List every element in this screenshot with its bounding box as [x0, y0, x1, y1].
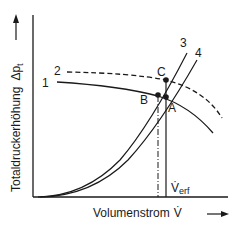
- point-b-marker: [155, 92, 161, 98]
- y-axis-arrow-icon: [13, 14, 19, 23]
- curve-1-label: 1: [42, 76, 49, 90]
- curve-4-system-resistance: [40, 60, 197, 197]
- point-c-label: C: [157, 65, 166, 79]
- x-axis-arrow-icon: [221, 211, 229, 217]
- point-b-label: B: [140, 93, 148, 107]
- curve-3-label: 3: [180, 36, 187, 50]
- point-a-marker: [163, 94, 169, 100]
- fan-characteristic-diagram: C B A 1 2 3 4 V̇erf VolumenstromV̇ Total…: [0, 0, 239, 228]
- point-a-label: A: [168, 101, 176, 115]
- x-axis-title: VolumenstromV̇: [93, 206, 182, 220]
- curve-2-label: 2: [54, 64, 61, 78]
- v-required-label: V̇erf: [171, 181, 190, 196]
- curve-1-fan-characteristic: [57, 82, 213, 133]
- curve-4-label: 4: [195, 46, 202, 60]
- y-axis-title-group: TotaldruckerhöhungΔpt: [9, 63, 25, 192]
- y-axis-title: TotaldruckerhöhungΔpt: [9, 63, 25, 192]
